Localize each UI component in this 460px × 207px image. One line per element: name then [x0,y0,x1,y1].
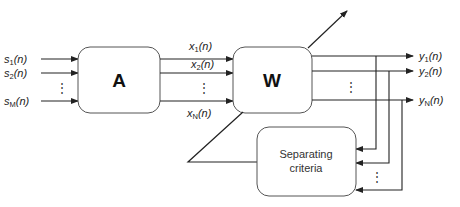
input-label-s2: s2(n) [4,67,27,81]
mixture-ellipsis: ⋮ [198,81,210,95]
bss-diagram: s1(n) s2(n) sM(n) ⋮ A x1(n) x2(n) xN(n) … [0,0,460,207]
adaptation-arrow-out [308,11,347,48]
output-label-y1: y1(n) [418,50,442,64]
output-label-y2: y2(n) [418,65,442,79]
feedback-ellipsis: ⋮ [371,170,383,184]
criteria-label-line2: criteria [289,162,323,174]
input-ellipsis: ⋮ [56,81,68,95]
mixture-label-x2: x2(n) [190,58,214,72]
mixing-block-label: A [112,70,126,91]
adaptation-feedback-line [188,112,257,162]
output-arrows [312,56,413,100]
mixture-label-x1: x1(n) [188,40,212,54]
mixture-label-xN: xN(n) [186,107,212,121]
feedback-y1 [356,56,376,149]
output-ellipsis: ⋮ [345,80,357,94]
input-label-sM: sM(n) [4,95,30,109]
output-label-yN: yN(n) [418,94,444,108]
demixing-block-label: W [263,70,281,91]
input-label-s1: s1(n) [4,53,27,67]
criteria-label-line1: Separating [279,148,332,160]
